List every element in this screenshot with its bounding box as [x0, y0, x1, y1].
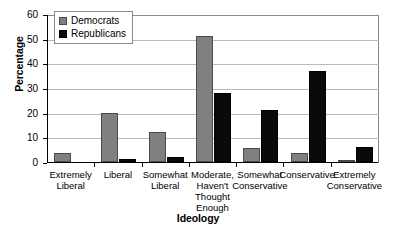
x-cat-label-line: Liberal	[43, 180, 98, 191]
bar-democrats-1[interactable]	[101, 113, 118, 162]
bar-republicans-5[interactable]	[309, 71, 326, 162]
bar-democrats-3[interactable]	[196, 36, 213, 162]
x-axis-title: Ideology	[153, 212, 243, 224]
y-tick-label-20: 20	[16, 109, 38, 119]
y-tick-label-40: 40	[16, 59, 38, 69]
x-cat-label-line: Extremely	[327, 169, 382, 180]
gridline-40	[48, 64, 379, 65]
bar-republicans-4[interactable]	[261, 110, 278, 162]
bar-republicans-3[interactable]	[214, 93, 231, 162]
y-tick-label-0: 0	[16, 158, 38, 168]
bar-democrats-4[interactable]	[243, 148, 260, 162]
bar-democrats-6[interactable]	[338, 160, 355, 162]
bar-democrats-0[interactable]	[54, 153, 71, 162]
x-tick-mark-4	[283, 163, 284, 167]
bar-republicans-6[interactable]	[356, 147, 373, 162]
legend-label-republicans: Republicans	[71, 28, 126, 39]
x-cat-label-line: Conservative	[327, 180, 382, 191]
bar-democrats-2[interactable]	[149, 132, 166, 162]
republicans-swatch-icon	[59, 30, 67, 38]
x-cat-label-6: ExtremelyConservative	[327, 169, 382, 191]
x-tick-mark-5	[331, 163, 332, 167]
gridline-30	[48, 89, 379, 90]
bar-democrats-5[interactable]	[291, 153, 308, 162]
bar-republicans-2[interactable]	[167, 157, 184, 162]
x-tick-mark-3	[236, 163, 237, 167]
legend-item-democrats[interactable]: Democrats	[59, 14, 126, 27]
bar-chart: Percentage 0102030405060 ExtremelyLibera…	[0, 0, 396, 231]
y-tick-label-30: 30	[16, 84, 38, 94]
x-cat-label-line: Thought	[185, 191, 240, 202]
democrats-swatch-icon	[59, 17, 67, 25]
bar-republicans-1[interactable]	[119, 159, 136, 162]
legend-item-republicans[interactable]: Republicans	[59, 27, 126, 40]
chart-legend: Democrats Republicans	[54, 11, 133, 44]
y-tick-mark-0	[43, 163, 47, 164]
x-tick-mark-1	[142, 163, 143, 167]
y-tick-label-60: 60	[16, 10, 38, 20]
y-tick-label-10: 10	[16, 133, 38, 143]
legend-label-democrats: Democrats	[71, 15, 119, 26]
x-tick-mark-0	[94, 163, 95, 167]
x-tick-mark-2	[189, 163, 190, 167]
y-tick-label-50: 50	[16, 35, 38, 45]
x-cat-label-line: Conservative	[232, 180, 287, 191]
